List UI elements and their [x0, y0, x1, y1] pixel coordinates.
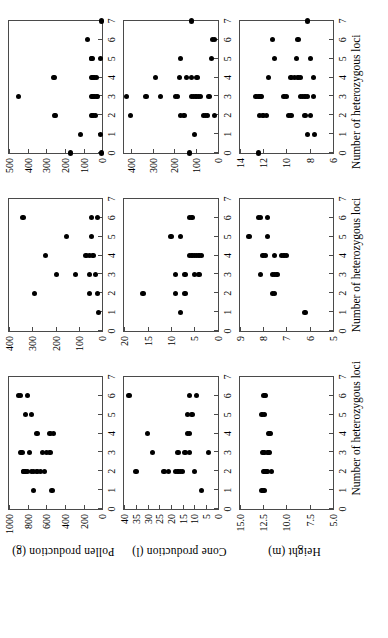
data-point — [51, 431, 56, 436]
data-point — [268, 431, 273, 436]
y-tick-label: 15.0 — [234, 514, 245, 532]
x-tick-label: 7 — [222, 375, 233, 380]
x-tick — [98, 198, 103, 199]
x-tick — [214, 433, 219, 434]
data-point — [47, 450, 52, 455]
x-tick-label: 1 — [337, 488, 348, 493]
x-tick-label: 6 — [106, 393, 117, 398]
x-tick — [214, 236, 219, 237]
y-tick-label: 400 — [59, 514, 70, 529]
y-tick-label: 0 — [97, 158, 108, 163]
data-point — [140, 291, 145, 296]
y-tick — [102, 327, 103, 332]
y-tick-label: 12 — [257, 158, 268, 168]
x-tick — [214, 489, 219, 490]
plot-area: 0123456756789 — [239, 198, 334, 332]
y-tick-label: 0 — [97, 336, 108, 341]
data-point — [265, 234, 270, 239]
data-point — [150, 450, 155, 455]
x-tick-label: 1 — [337, 132, 348, 137]
data-point — [206, 450, 211, 455]
y-tick-label: 600 — [41, 514, 52, 529]
data-point — [98, 132, 103, 137]
y-tick — [194, 505, 195, 510]
data-point — [99, 18, 104, 23]
x-tick-label: 6 — [337, 37, 348, 42]
data-point — [302, 113, 307, 118]
x-tick-label: 1 — [222, 310, 233, 315]
x-tick — [214, 273, 219, 274]
data-point — [168, 234, 173, 239]
x-tick — [214, 292, 219, 293]
x-tick-label: 2 — [337, 469, 348, 474]
x-tick-label: 4 — [222, 75, 233, 80]
x-tick — [214, 133, 219, 134]
x-tick-label: 2 — [106, 291, 117, 296]
y-tick — [240, 149, 241, 154]
data-point — [182, 272, 187, 277]
data-point — [128, 113, 133, 118]
data-point — [187, 450, 192, 455]
x-tick — [214, 414, 219, 415]
x-tick-label: 3 — [337, 272, 348, 277]
x-tick — [98, 114, 103, 115]
y-tick — [148, 327, 149, 332]
y-tick — [9, 505, 10, 510]
data-point — [19, 450, 24, 455]
panel-r2-c0: 012345675.07.510.012.515.0 — [237, 366, 352, 544]
data-point — [54, 272, 59, 277]
y-tick — [218, 327, 219, 332]
data-point — [263, 393, 268, 398]
data-point — [305, 18, 310, 23]
data-point — [209, 56, 214, 61]
y-tick-label: 14 — [234, 158, 245, 168]
x-tick-label: 0 — [222, 151, 233, 156]
data-point — [194, 75, 199, 80]
data-point — [189, 412, 194, 417]
data-point — [23, 412, 28, 417]
data-point — [295, 37, 300, 42]
data-point — [27, 450, 32, 455]
x-tick — [329, 273, 334, 274]
x-tick — [329, 395, 334, 396]
y-tick — [333, 505, 334, 510]
data-point — [145, 431, 150, 436]
y-tick-label: 9 — [234, 336, 245, 341]
x-tick-label: 0 — [337, 507, 348, 512]
panel-r1-c1: 0123456705101520 — [121, 188, 236, 366]
data-point — [20, 215, 25, 220]
panel-r0-c0: 0123456702004006008001000 — [6, 366, 121, 544]
data-point — [284, 94, 289, 99]
y-tick — [263, 149, 264, 154]
x-tick — [98, 395, 103, 396]
x-tick — [329, 433, 334, 434]
data-point — [99, 150, 104, 155]
data-point — [25, 393, 30, 398]
data-point — [18, 393, 23, 398]
data-point — [182, 291, 187, 296]
y-tick-label: 0 — [212, 514, 223, 519]
plot-area: 0123456702004006008001000 — [8, 376, 103, 510]
row-axis-label-text: Height (m) — [268, 546, 321, 558]
data-point — [298, 75, 303, 80]
y-tick — [286, 327, 287, 332]
x-tick-label: 7 — [222, 19, 233, 24]
x-tick-label: 0 — [337, 151, 348, 156]
data-point — [53, 113, 58, 118]
x-tick — [329, 236, 334, 237]
y-tick-label: 0 — [97, 514, 108, 519]
data-point — [263, 253, 268, 258]
y-tick-label: 5 — [328, 336, 339, 341]
data-point — [270, 37, 275, 42]
data-point — [187, 431, 192, 436]
data-point — [206, 94, 211, 99]
row-axis-label-2: Height (m) — [237, 544, 352, 636]
y-tick — [174, 149, 175, 154]
x-tick-label: 6 — [106, 37, 117, 42]
data-point — [266, 75, 271, 80]
y-tick — [9, 327, 10, 332]
row-axis-label-text: Pollen production (g) — [12, 546, 115, 558]
data-point — [294, 56, 299, 61]
y-tick — [65, 149, 66, 154]
x-tick — [214, 451, 219, 452]
